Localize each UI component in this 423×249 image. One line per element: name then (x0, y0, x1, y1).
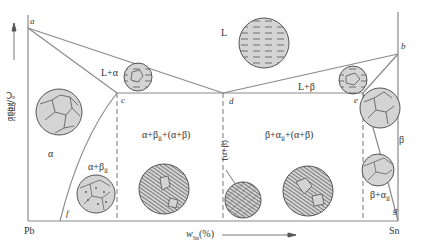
hypereutectic-circle (283, 166, 333, 216)
eutectic-circle (225, 182, 261, 218)
x-axis-label: wSn(%) (186, 229, 214, 241)
point-b: b (401, 42, 406, 51)
region-hypereutectic: β+αⅡ+(α+β) (265, 130, 313, 142)
region-beta-alphaII: β+αⅡ (370, 190, 390, 202)
phase-diagram (0, 0, 423, 249)
region-liquid: L (221, 28, 227, 38)
point-g: g (393, 206, 398, 215)
beta-grains-circle (360, 88, 400, 128)
region-beta: β (399, 135, 404, 145)
hypoeutectic-circle (139, 164, 189, 214)
point-c: c (121, 96, 125, 105)
point-a: a (30, 17, 35, 26)
region-alpha-betaII: α+βⅡ (88, 162, 108, 174)
x-axis-right-label: Sn (389, 226, 400, 236)
region-l-beta: L+β (298, 82, 315, 92)
alpha-betaII-circle (77, 175, 115, 213)
point-e: e (354, 96, 358, 105)
liquid-circle (239, 18, 289, 68)
region-alpha: α (48, 149, 53, 159)
x-axis-arrow (222, 233, 296, 237)
beta-alphaII-circle (362, 154, 394, 186)
eutectic-pointer (226, 170, 236, 185)
region-hypoeutectic: α+βⅡ+(α+β) (142, 130, 190, 142)
point-f: f (66, 209, 69, 218)
l-alpha-circle (124, 63, 152, 91)
x-axis-left-label: Pb (24, 226, 35, 236)
point-d: d (229, 97, 234, 106)
l-beta-circle (339, 66, 367, 94)
alpha-grains-circle (36, 89, 82, 135)
y-axis-label: 温度/℃ (4, 90, 17, 121)
region-eutectic: (α+β) (220, 140, 229, 160)
y-axis-arrow (12, 23, 16, 60)
region-l-alpha: L+α (101, 68, 118, 78)
